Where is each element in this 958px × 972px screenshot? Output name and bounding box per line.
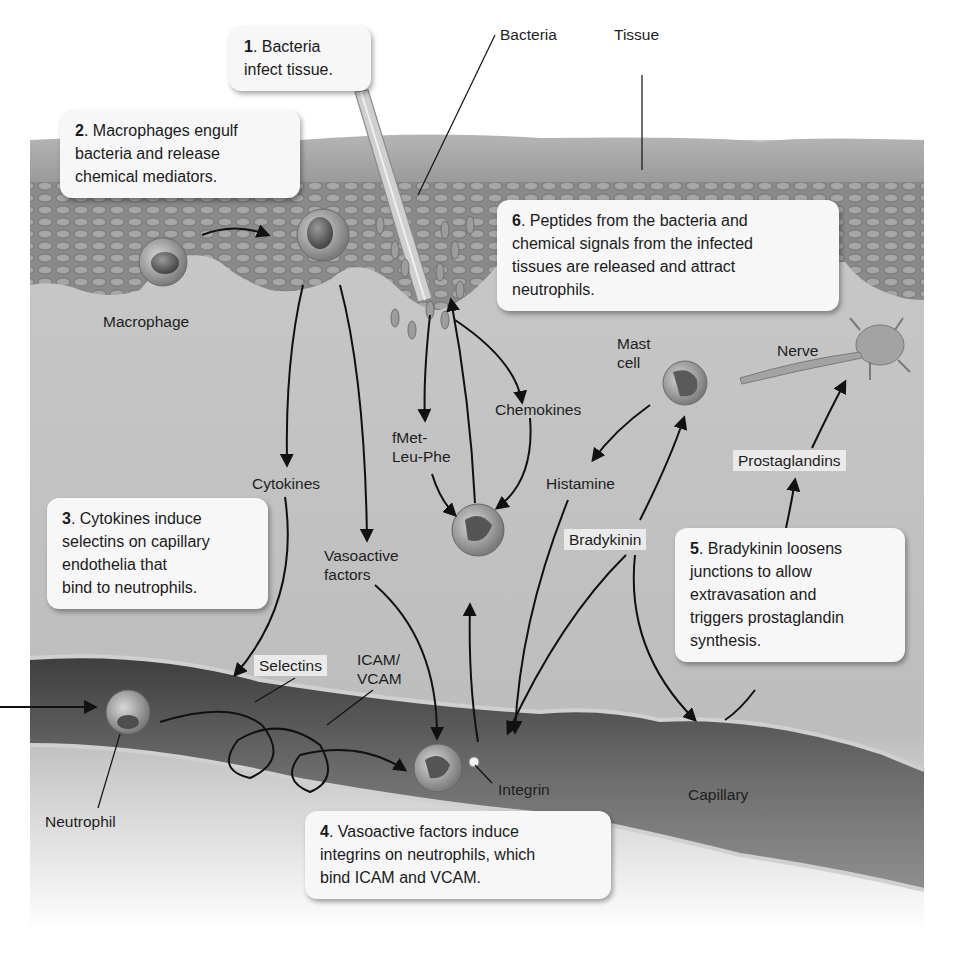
step-4-line1: . Vasoactive factors induce (329, 823, 519, 840)
label-icam-line1: ICAM/ (357, 650, 402, 669)
step-4-line2: integrins on neutrophils, which (320, 843, 597, 866)
step-2-line1: . Macrophages engulf (84, 122, 238, 139)
step-1-number: 1 (244, 38, 253, 55)
step-3-line1: . Cytokines induce (71, 510, 202, 527)
label-vasoactive-factors: Vasoactive factors (324, 546, 399, 584)
step-6-line2: chemical signals from the infected (512, 232, 825, 255)
label-fmet-line2: Leu-Phe (392, 447, 451, 466)
label-chemokines: Chemokines (495, 400, 581, 419)
neutrophil-cell-icon (414, 744, 462, 792)
label-bradykinin: Bradykinin (564, 529, 646, 550)
step-6-line1: . Peptides from the bacteria and (521, 212, 748, 229)
label-capillary: Capillary (688, 785, 748, 804)
label-prostaglandins: Prostaglandins (733, 450, 846, 471)
neutrophil-cell-icon (106, 690, 150, 734)
label-tissue: Tissue (614, 25, 659, 44)
step-5-line2: junctions to allow (690, 560, 891, 583)
label-integrin: Integrin (498, 780, 550, 799)
step-4-number: 4 (320, 823, 329, 840)
neutrophil-cell-icon (452, 504, 504, 556)
step-2-number: 2 (75, 122, 84, 139)
label-histamine: Histamine (546, 474, 615, 493)
label-mast-cell-line1: Mast (617, 334, 651, 353)
step-3-line2: selectins on capillary (62, 530, 254, 553)
step-3-line4: bind to neutrophils. (62, 576, 254, 599)
callout-step-1: 1. Bacteria infect tissue. (229, 26, 371, 91)
step-6-line3: tissues are released and attract (512, 255, 825, 278)
label-icam-line2: VCAM (357, 669, 402, 688)
label-cytokines: Cytokines (252, 474, 320, 493)
mast-cell-icon (663, 361, 707, 405)
step-3-line3: endothelia that (62, 553, 254, 576)
step-2-line2: bacteria and release (75, 142, 286, 165)
step-1-line2: infect tissue. (244, 58, 357, 81)
label-mast-cell-line2: cell (617, 353, 651, 372)
step-4-line3: bind ICAM and VCAM. (320, 866, 597, 889)
step-5-line3: extravasation and (690, 583, 891, 606)
macrophage-cell-icon (297, 209, 349, 261)
step-5-line5: synthesis. (690, 629, 891, 652)
label-nerve: Nerve (777, 341, 818, 360)
label-fmet-leu-phe: fMet- Leu-Phe (392, 428, 451, 466)
callout-step-3: 3. Cytokines induce selectins on capilla… (47, 498, 268, 609)
step-1-line1: . Bacteria (253, 38, 321, 55)
label-icam-vcam: ICAM/ VCAM (357, 650, 402, 688)
callout-step-4: 4. Vasoactive factors induce integrins o… (305, 811, 611, 899)
step-2-line3: chemical mediators. (75, 165, 286, 188)
callout-step-6: 6. Peptides from the bacteria and chemic… (497, 200, 839, 311)
label-vasoactive-line2: factors (324, 565, 399, 584)
step-3-number: 3 (62, 510, 71, 527)
callout-step-2: 2. Macrophages engulf bacteria and relea… (60, 110, 300, 198)
callout-step-5: 5. Bradykinin loosens junctions to allow… (675, 528, 905, 662)
step-5-line4: triggers prostaglandin (690, 606, 891, 629)
label-mast-cell: Mast cell (617, 334, 651, 372)
label-selectins: Selectins (254, 655, 327, 676)
step-6-number: 6 (512, 212, 521, 229)
label-neutrophil: Neutrophil (45, 812, 116, 831)
step-5-line1: . Bradykinin loosens (699, 540, 842, 557)
step-5-number: 5 (690, 540, 699, 557)
label-fmet-line1: fMet- (392, 428, 451, 447)
macrophage-cell-icon (139, 238, 187, 286)
label-macrophage: Macrophage (103, 312, 189, 331)
label-bacteria: Bacteria (500, 25, 557, 44)
step-6-line4: neutrophils. (512, 278, 825, 301)
label-vasoactive-line1: Vasoactive (324, 546, 399, 565)
